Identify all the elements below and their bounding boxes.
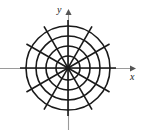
polar-grid-figure	[0, 0, 141, 139]
origin-point	[65, 65, 70, 70]
y-axis-arrowhead	[65, 9, 71, 15]
x-axis-label: x	[130, 72, 134, 82]
y-axis-label: y	[57, 5, 61, 15]
figure-container: y x	[0, 0, 141, 139]
